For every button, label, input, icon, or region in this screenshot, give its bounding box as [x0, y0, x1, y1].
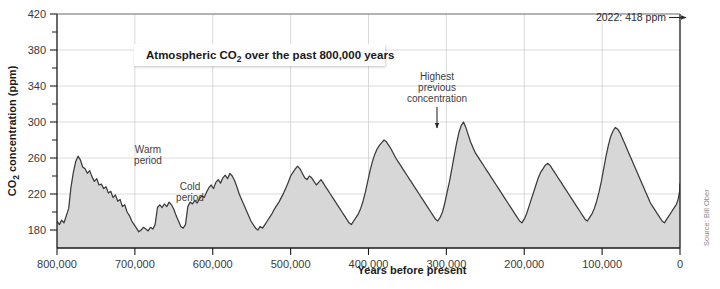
annotation-cold-period: Cold period	[176, 181, 204, 203]
x-tick-label-200000: 200,000	[504, 258, 544, 270]
annotation-highest-previous-line3: concentration	[407, 93, 467, 104]
y-tick-label-340: 340	[28, 80, 46, 92]
y-tick-label-420: 420	[28, 8, 46, 20]
annotation-warm-period: Warm period	[134, 144, 162, 166]
annotation-warm-period-line1: Warm	[135, 144, 161, 155]
y-axis-title-part2: concentration (ppm)	[6, 65, 18, 175]
annotation-highest-previous-line2: previous	[418, 82, 456, 93]
chart-canvas: 180220260300340380420 800,000700,000600,…	[0, 0, 720, 289]
y-tick-label-300: 300	[28, 116, 46, 128]
x-tick-label-0: 0	[677, 258, 683, 270]
x-axis-title: Years before present	[358, 264, 467, 276]
y-tick-label-260: 260	[28, 152, 46, 164]
y-tick-label-220: 220	[28, 188, 46, 200]
x-tick-label-700000: 700,000	[115, 258, 155, 270]
source-credit: Source: Bill Ober	[702, 189, 711, 246]
y-tick-label-380: 380	[28, 44, 46, 56]
x-tick-label-100000: 100,000	[582, 258, 622, 270]
annotation-warm-period-line2: period	[134, 155, 162, 166]
annotation-cold-period-line1: Cold	[180, 181, 201, 192]
annotation-cold-period-line2: period	[176, 192, 204, 203]
y-tick-label-180: 180	[28, 224, 46, 236]
source-credit-text: Source: Bill Ober	[702, 189, 711, 246]
chart-title-part2: over the past 800,000 years	[241, 49, 394, 61]
annotation-highest-previous-line1: Highest	[420, 71, 454, 82]
annotation-modern-value-label: 2022: 418 ppm	[596, 11, 666, 23]
chart-title-callout: Atmospheric CO2 over the past 800,000 ye…	[134, 44, 394, 66]
x-tick-label-600000: 600,000	[193, 258, 233, 270]
co2-chart-figure: 180220260300340380420 800,000700,000600,…	[0, 0, 720, 289]
x-tick-label-800000: 800,000	[37, 258, 77, 270]
x-tick-label-500000: 500,000	[271, 258, 311, 270]
chart-title-part1: Atmospheric CO	[146, 49, 237, 61]
y-axis-title-part1: CO	[6, 179, 18, 196]
